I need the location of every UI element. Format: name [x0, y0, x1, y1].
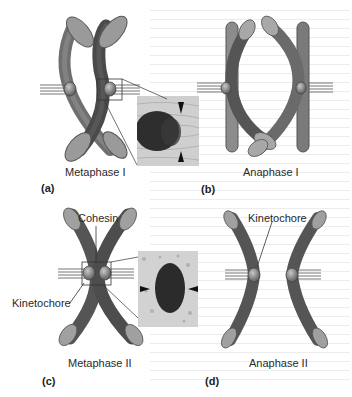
- spindle-fibers-left: [197, 83, 222, 92]
- spindle-fibers-right: [308, 83, 333, 92]
- chromosomes-metaphase-i: [40, 12, 167, 166]
- stage-label-metaphase-i: Metaphase I: [65, 166, 126, 178]
- panel-letter-a: (a): [41, 182, 54, 194]
- annotation-kinetochore-metaphase-ii: Kinetochore: [12, 297, 71, 309]
- chromosomes-anaphase-i: [197, 13, 333, 160]
- stage-label-anaphase-ii: Anaphase II: [249, 357, 308, 369]
- chromosomes-metaphase-ii: [55, 205, 146, 349]
- meiosis-diagram: [0, 0, 352, 397]
- spindle-fibers-right: [296, 270, 321, 279]
- panel-letter-d: (d): [205, 375, 219, 387]
- annotation-cohesin: Cohesin: [78, 212, 118, 224]
- stage-label-metaphase-ii: Metaphase II: [68, 357, 132, 369]
- panel-letter-b: (b): [201, 183, 215, 195]
- annotation-kinetochore-anaphase-ii: Kinetochore: [248, 212, 307, 224]
- panel-letter-c: (c): [42, 375, 55, 387]
- spindle-fibers-left: [225, 270, 250, 279]
- spindle-fibers-right: [108, 269, 134, 278]
- stage-label-anaphase-i: Anaphase I: [243, 166, 299, 178]
- chromosomes-anaphase-ii: [218, 208, 330, 350]
